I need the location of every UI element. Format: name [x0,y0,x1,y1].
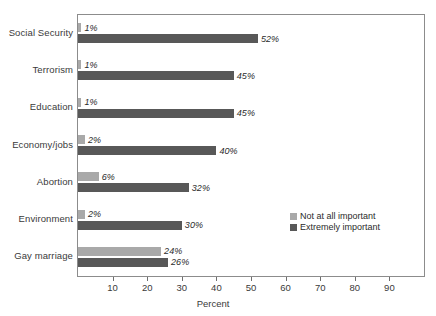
chart-legend: Not at all importantExtremely important [290,211,380,233]
category-label: Environment [19,213,73,224]
bar-value-label: 45% [237,108,255,118]
bar-value-label: 2% [88,135,101,145]
x-tick-mark [251,277,252,281]
x-tick-mark [216,277,217,281]
bar-extremely-important [78,258,168,267]
x-axis-title: Percent [0,298,436,309]
x-axis-ticks: 102030405060708090 [77,277,425,285]
x-tick-label: 10 [107,282,118,293]
bar-not-at-all-important [78,60,81,69]
category-label: Social Security [9,26,73,37]
bar-extremely-important [78,34,258,43]
bar-value-label: 45% [237,71,255,81]
bar-value-label: 1% [84,60,97,70]
bar-value-label: 24% [164,246,182,256]
x-tick-label: 90 [384,282,395,293]
category-label: Abortion [37,175,73,186]
legend-item: Not at all important [290,211,380,222]
legend-item: Extremely important [290,222,380,233]
category-label: Economy/jobs [12,138,73,149]
bar-value-label: 1% [84,23,97,33]
bar-extremely-important [78,221,182,230]
x-tick-label: 50 [246,282,257,293]
bar-value-label: 26% [171,257,189,267]
x-tick-mark [389,277,390,281]
x-tick-label: 40 [211,282,222,293]
bar-value-label: 30% [185,220,203,230]
bar-not-at-all-important [78,135,85,144]
bar-not-at-all-important [78,247,161,256]
category-label: Terrorism [33,63,73,74]
bar-extremely-important [78,109,234,118]
bar-value-label: 52% [261,34,279,44]
bar-chart: Social SecurityTerrorismEducationEconomy… [0,0,436,316]
x-tick-mark [320,277,321,281]
x-tick-mark [355,277,356,281]
x-tick-mark [147,277,148,281]
bar-value-label: 40% [219,146,237,156]
x-tick-mark [113,277,114,281]
bar-value-label: 32% [192,183,210,193]
category-label: Gay marriage [14,250,73,261]
bar-extremely-important [78,71,234,80]
x-tick-mark [286,277,287,281]
bar-not-at-all-important [78,172,99,181]
category-axis-labels: Social SecurityTerrorismEducationEconomy… [0,14,75,277]
x-tick-label: 20 [142,282,153,293]
bar-value-label: 2% [88,209,101,219]
bars-layer: 1%52%1%45%1%45%2%40%6%32%2%30%24%26% [78,15,424,276]
bar-value-label: 6% [102,172,115,182]
x-tick-mark [182,277,183,281]
legend-swatch [290,213,297,220]
x-tick-label: 60 [280,282,291,293]
x-axis-title-text: Percent [197,298,230,309]
x-tick-label: 80 [350,282,361,293]
x-tick-label: 30 [177,282,188,293]
bar-not-at-all-important [78,23,81,32]
x-tick-label: 70 [315,282,326,293]
legend-label: Not at all important [300,211,376,222]
category-label: Education [30,101,73,112]
bar-not-at-all-important [78,210,85,219]
bar-value-label: 1% [84,97,97,107]
legend-swatch [290,224,297,231]
bar-extremely-important [78,183,189,192]
legend-label: Extremely important [300,222,380,233]
bar-extremely-important [78,146,216,155]
bar-not-at-all-important [78,98,81,107]
